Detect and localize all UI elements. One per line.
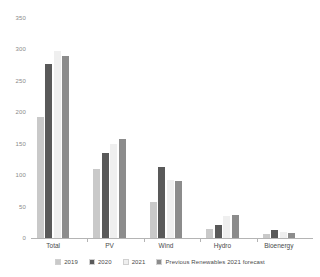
y-axis-tick-label: 0 (22, 235, 26, 241)
bar (150, 202, 157, 238)
bar (54, 51, 61, 238)
bar (232, 215, 239, 238)
y-axis-tick-label: 200 (15, 109, 26, 115)
legend-label: 2020 (98, 259, 112, 265)
chart-legend: 201920202021Previous Renewables 2021 for… (0, 259, 320, 265)
x-axis-category-label: Wind (159, 242, 174, 249)
bar-group (93, 18, 126, 238)
legend-item[interactable]: 2020 (89, 259, 112, 265)
legend-item[interactable]: 2019 (55, 259, 78, 265)
bars-layer (31, 18, 313, 238)
bar (45, 64, 52, 238)
x-axis-category-label: PV (105, 242, 114, 249)
bar (271, 230, 278, 238)
y-axis-tick-label: 250 (15, 78, 26, 84)
bar (62, 56, 69, 238)
bar (175, 181, 182, 238)
legend-swatch-icon (55, 259, 61, 265)
legend-item[interactable]: Previous Renewables 2021 forecast (156, 259, 264, 265)
legend-swatch-icon (89, 259, 95, 265)
x-axis-tick (257, 238, 258, 242)
bar (37, 117, 44, 238)
y-axis-tick-label: 300 (15, 46, 26, 52)
x-axis-line (31, 238, 313, 239)
bar-group (150, 18, 183, 238)
x-axis-category-label: Bioenergy (264, 242, 293, 249)
legend-label: 2019 (64, 259, 78, 265)
bar (215, 225, 222, 238)
bar (119, 139, 126, 238)
legend-item[interactable]: 2021 (123, 259, 146, 265)
x-axis-category-label: Hydro (214, 242, 231, 249)
bar (110, 144, 117, 238)
bar (102, 153, 109, 238)
bar (288, 233, 295, 238)
y-axis-tick-label: 350 (15, 15, 26, 21)
bar (158, 167, 165, 238)
bar (280, 232, 287, 238)
y-axis-tick-label: 150 (15, 141, 26, 147)
bar-group (206, 18, 239, 238)
legend-swatch-icon (156, 259, 162, 265)
x-axis-category-label: Total (46, 242, 60, 249)
bar-group (37, 18, 70, 238)
legend-label: Previous Renewables 2021 forecast (165, 259, 264, 265)
bar (206, 229, 213, 238)
bar (263, 234, 270, 238)
bar (167, 180, 174, 238)
y-axis-tick-label: 50 (19, 204, 26, 210)
bar (93, 169, 100, 238)
bar (223, 216, 230, 238)
bar-chart: 050100150200250300350 201920202021Previo… (0, 0, 320, 277)
x-axis-tick (200, 238, 201, 242)
legend-label: 2021 (132, 259, 146, 265)
legend-swatch-icon (123, 259, 129, 265)
bar-group (263, 18, 296, 238)
x-axis-tick (144, 238, 145, 242)
y-axis-tick-label: 100 (15, 172, 26, 178)
x-axis-tick (87, 238, 88, 242)
